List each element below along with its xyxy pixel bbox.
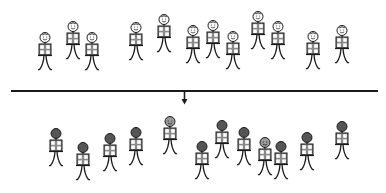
bottom-figure-3	[100, 132, 120, 174]
top-figure-4	[126, 21, 146, 63]
stick-figure-icon	[46, 127, 66, 169]
stick-figure-icon	[126, 21, 146, 63]
top-figure-9	[248, 10, 268, 52]
top-figure-1	[35, 31, 55, 73]
arrow-down-icon	[180, 91, 189, 105]
bottom-figure-5-smiling	[160, 115, 180, 157]
top-figure-10	[268, 20, 288, 62]
stick-figure-icon	[154, 13, 174, 55]
top-figure-11	[303, 30, 323, 72]
divider-line	[11, 90, 378, 92]
stick-figure-icon	[203, 19, 223, 61]
stick-figure-icon	[212, 119, 232, 161]
bottom-figure-12	[332, 120, 352, 162]
bottom-figure-2	[73, 141, 93, 183]
bottom-figure-6	[192, 140, 212, 182]
bottom-figure-1	[46, 127, 66, 169]
stick-figure-icon	[73, 141, 93, 183]
stick-figure-icon	[234, 126, 254, 168]
stick-figure-icon	[192, 140, 212, 182]
stick-figure-icon	[82, 31, 102, 73]
stick-figure-icon	[271, 140, 291, 182]
stick-figure-icon	[183, 24, 203, 66]
top-figure-7	[203, 19, 223, 61]
top-figure-3	[82, 31, 102, 73]
top-figure-5	[154, 13, 174, 55]
stick-figure-icon	[35, 31, 55, 73]
stick-figure-icon	[332, 24, 352, 66]
stick-figure-icon	[303, 30, 323, 72]
bottom-figure-7	[212, 119, 232, 161]
top-figure-2	[63, 20, 83, 62]
stick-figure-icon	[223, 30, 243, 72]
stick-figure-icon	[248, 10, 268, 52]
bottom-figure-8	[234, 126, 254, 168]
bottom-figure-11	[297, 131, 317, 173]
stick-figure-icon	[100, 132, 120, 174]
top-figure-12	[332, 24, 352, 66]
bottom-figure-4	[126, 126, 146, 168]
stick-figure-icon	[126, 126, 146, 168]
bottom-figure-10	[271, 140, 291, 182]
top-figure-6	[183, 24, 203, 66]
stick-figure-icon	[63, 20, 83, 62]
stick-figure-icon	[297, 131, 317, 173]
stick-figure-icon	[160, 115, 180, 157]
top-figure-8	[223, 30, 243, 72]
stick-figure-icon	[332, 120, 352, 162]
stick-figure-icon	[268, 20, 288, 62]
diagram-canvas	[0, 0, 386, 193]
